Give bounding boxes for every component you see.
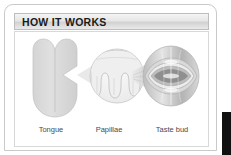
page-title: HOW IT WORKS	[22, 16, 107, 28]
taste-bud-icon	[143, 46, 199, 106]
tongue-icon	[33, 39, 77, 117]
stage-label-tongue: Tongue	[19, 125, 83, 134]
right-edge-dark-strip	[222, 112, 231, 155]
left-margin-strip	[0, 0, 4, 155]
stage-label-papillae: Papillae	[77, 125, 141, 134]
card-header-bar: HOW IT WORKS	[14, 13, 209, 30]
how-it-works-card: HOW IT WORKS	[4, 4, 217, 151]
stage-label-taste-bud: Taste bud	[139, 125, 205, 134]
diagram-panel: Tongue Papillae Taste bud	[14, 31, 209, 147]
